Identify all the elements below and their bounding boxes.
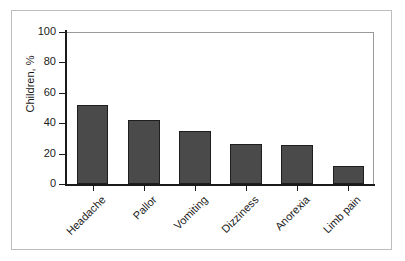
y-tick-label: 20 (16, 148, 56, 159)
y-tick-mark (59, 32, 65, 33)
y-tick-mark (59, 123, 65, 124)
x-tick-mark (195, 186, 196, 191)
x-tick-mark (297, 186, 298, 191)
y-tick-mark (59, 184, 65, 185)
y-tick-label: 60 (16, 87, 56, 98)
y-tick-label: 80 (16, 56, 56, 67)
bar (179, 131, 211, 184)
x-tick-mark (93, 186, 94, 191)
y-tick-mark (59, 93, 65, 94)
y-tick-mark (59, 62, 65, 63)
bar (128, 120, 160, 184)
y-tick-label: 0 (16, 178, 56, 189)
x-axis-line (65, 184, 375, 186)
plot-area (67, 32, 374, 184)
y-axis-line (65, 30, 67, 186)
x-tick-mark (246, 186, 247, 191)
y-tick-mark (59, 154, 65, 155)
bar (281, 145, 313, 184)
x-tick-mark (348, 186, 349, 191)
bar (230, 144, 262, 184)
bar-chart-figure: Children, % 020406080100 HeadachePallorV… (0, 0, 405, 261)
x-tick-mark (144, 186, 145, 191)
bar (333, 166, 365, 184)
y-tick-label: 100 (16, 26, 56, 37)
y-tick-label: 40 (16, 117, 56, 128)
bar (77, 105, 109, 184)
